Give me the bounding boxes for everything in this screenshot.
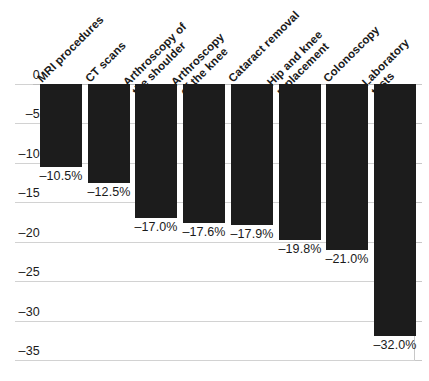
gridline bbox=[33, 321, 415, 322]
axis-tick bbox=[415, 202, 422, 203]
bar bbox=[183, 84, 225, 223]
y-axis-tick-label: –10 bbox=[19, 147, 40, 161]
gridline-stub bbox=[15, 202, 33, 203]
y-axis-tick-label: –25 bbox=[19, 265, 40, 279]
axis-tick bbox=[415, 360, 422, 361]
bar bbox=[326, 84, 368, 250]
gridline-stub bbox=[15, 123, 33, 124]
bar-value-label: –17.9% bbox=[223, 227, 281, 241]
axis-tick bbox=[415, 123, 422, 124]
gridline-stub bbox=[15, 242, 33, 243]
gridline-stub bbox=[15, 360, 33, 361]
axis-tick bbox=[415, 163, 422, 164]
axis-tick bbox=[415, 321, 422, 322]
gridline-stub bbox=[15, 321, 33, 322]
plot-area: –10.5%–12.5%–17.0%–17.6%–17.9%–19.8%–21.… bbox=[33, 84, 415, 360]
bar-value-label: –12.5% bbox=[80, 185, 138, 199]
bar-value-label: –10.5% bbox=[32, 169, 90, 183]
bar bbox=[88, 84, 130, 183]
y-axis-tick-label: –30 bbox=[19, 305, 40, 319]
bar-value-label: –21.0% bbox=[318, 252, 376, 266]
y-axis-tick-label: –5 bbox=[26, 107, 40, 121]
axis-tick bbox=[415, 242, 422, 243]
y-axis-tick-label: –15 bbox=[19, 186, 40, 200]
gridline-stub bbox=[15, 84, 33, 85]
bar-chart: MRI proceduresCT scansArthroscopy of the… bbox=[0, 0, 429, 381]
bar bbox=[374, 84, 416, 336]
y-axis-tick-label: 0 bbox=[33, 68, 40, 82]
bar bbox=[135, 84, 177, 218]
gridline bbox=[33, 360, 415, 361]
y-axis-tick-label: –20 bbox=[19, 226, 40, 240]
bar bbox=[279, 84, 321, 240]
axis-tick bbox=[415, 84, 422, 85]
bar-value-label: –32.0% bbox=[366, 338, 424, 352]
bar bbox=[231, 84, 273, 225]
axis-tick bbox=[415, 281, 422, 282]
y-axis-tick-label: –35 bbox=[19, 344, 40, 358]
bar bbox=[40, 84, 82, 167]
gridline bbox=[33, 281, 415, 282]
gridline-stub bbox=[15, 281, 33, 282]
gridline-stub bbox=[15, 163, 33, 164]
